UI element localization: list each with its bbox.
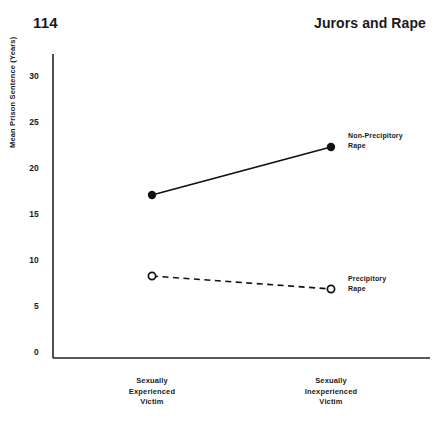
series-precipitory-rape bbox=[148, 272, 334, 292]
series-annotation-line: Precipitory bbox=[348, 274, 386, 284]
series-annotation-non-precipitory-rape: Non-Precipitory Rape bbox=[348, 131, 403, 150]
line-chart-figure: Mean Prison Sentence (Years) 0 5 10 15 2… bbox=[0, 0, 440, 427]
y-tick-label-5: 5 bbox=[5, 301, 39, 311]
data-point-marker-filled bbox=[148, 191, 156, 199]
x-category-line: Sexually bbox=[266, 376, 396, 387]
plot-area bbox=[0, 0, 440, 427]
series-line-dashed bbox=[152, 276, 331, 289]
series-annotation-precipitory-rape: Precipitory Rape bbox=[348, 274, 386, 293]
y-tick-label-30: 30 bbox=[5, 71, 39, 81]
x-category-line: Experienced bbox=[87, 387, 217, 398]
y-tick-label-25: 25 bbox=[5, 117, 39, 127]
x-category-label-inexperienced: Sexually Inexperienced Victim bbox=[266, 376, 396, 408]
data-point-marker-open bbox=[327, 285, 334, 292]
series-non-precipitory-rape bbox=[148, 143, 335, 199]
x-category-line: Sexually bbox=[87, 376, 217, 387]
series-annotation-line: Rape bbox=[348, 284, 386, 294]
y-tick-label-20: 20 bbox=[5, 163, 39, 173]
x-category-line: Victim bbox=[266, 397, 396, 408]
x-category-line: Victim bbox=[87, 397, 217, 408]
series-line-solid bbox=[152, 147, 331, 195]
series-annotation-line: Non-Precipitory bbox=[348, 131, 403, 141]
data-point-marker-open bbox=[148, 272, 155, 279]
data-point-marker-filled bbox=[327, 143, 335, 151]
y-tick-label-10: 10 bbox=[5, 255, 39, 265]
x-category-line: Inexperienced bbox=[266, 387, 396, 398]
x-category-label-experienced: Sexually Experienced Victim bbox=[87, 376, 217, 408]
series-annotation-line: Rape bbox=[348, 141, 403, 151]
y-tick-label-0: 0 bbox=[5, 347, 39, 357]
y-tick-label-15: 15 bbox=[5, 209, 39, 219]
